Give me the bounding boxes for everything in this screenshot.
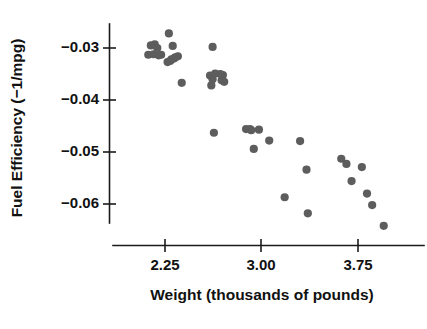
data-point [363,190,371,198]
x-axis-group: 2.25 3.00 3.75 Weight (thousands of poun… [113,239,424,303]
data-point [255,126,263,134]
data-point [304,209,312,217]
x-tick-label: 2.25 [150,256,179,273]
data-point [368,201,376,209]
data-point [265,136,273,144]
data-point [296,137,304,145]
y-tick-label: −0.03 [61,38,99,55]
y-tick-label: −0.05 [61,142,99,159]
x-tick-label: 3.75 [343,256,372,273]
x-axis-tick-labels: 2.25 3.00 3.75 [150,256,372,273]
data-point [250,145,258,153]
y-tick-label: −0.06 [61,194,99,211]
data-point [380,222,388,230]
y-tick-label: −0.04 [61,90,100,107]
data-point [169,42,177,50]
data-point [220,78,228,86]
data-point [157,51,165,59]
data-point [209,43,217,51]
data-point [178,79,186,87]
x-tick-label: 3.00 [246,256,275,273]
data-point [281,193,289,201]
y-axis-group: −0.03 −0.04 −0.05 −0.06 Fuel Efficiency … [8,24,116,223]
data-point [347,177,355,185]
y-axis-tick-labels: −0.03 −0.04 −0.05 −0.06 [61,38,100,211]
data-point [246,125,254,133]
plot-canvas: −0.03 −0.04 −0.05 −0.06 Fuel Efficiency … [0,0,427,329]
y-axis-title: Fuel Efficiency (−1/mpg) [8,39,25,218]
data-point [207,81,215,89]
data-point [302,166,310,174]
data-point [210,129,218,137]
data-point [358,163,366,171]
x-axis-title: Weight (thousands of pounds) [150,286,374,303]
data-point [174,52,182,60]
data-point [165,29,173,37]
data-points-layer [144,29,388,230]
data-point [342,160,350,168]
scatter-plot-figure: −0.03 −0.04 −0.05 −0.06 Fuel Efficiency … [0,0,427,329]
